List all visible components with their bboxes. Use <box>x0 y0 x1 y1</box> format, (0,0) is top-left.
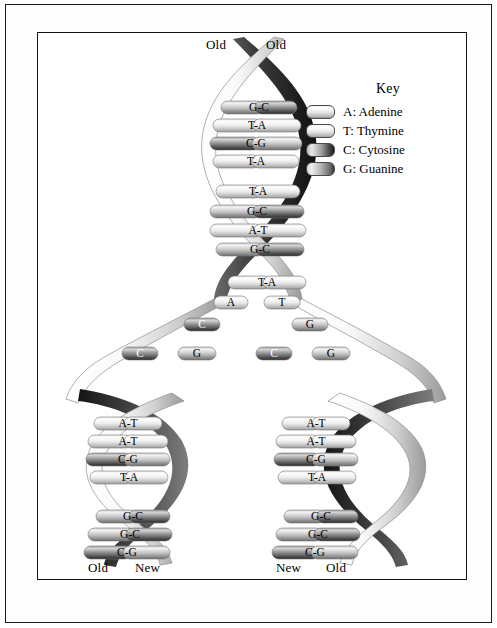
base-pair-text: T-A <box>258 276 277 288</box>
daughter-right-base-pairs: A-TA-TC-GT-AG-CG-CC-G <box>272 417 360 559</box>
base-pair-rung: T-A <box>213 119 301 132</box>
base-pair-rung: G-C <box>216 243 304 256</box>
unpaired-base: G <box>178 347 216 360</box>
unpaired-base: C <box>184 318 220 331</box>
base-pair-text: G-C <box>311 510 331 522</box>
base-pair-text: G-C <box>123 510 143 522</box>
base-pair-rung: C-G <box>272 546 358 559</box>
base-pair-rung: A-T <box>94 417 162 430</box>
base-pair-text: T-A <box>308 471 327 483</box>
key-label-a: A: Adenine <box>343 104 403 120</box>
base-pair-rung: C-G <box>210 137 302 150</box>
parent-helix <box>202 37 317 301</box>
base-pair-text: T-A <box>247 155 266 167</box>
base-pair-text: G-C <box>308 528 328 540</box>
parent-base-pairs: G-CT-AC-GT-AT-AG-CA-TG-CT-A <box>210 101 306 289</box>
label-daughter-right-old: Old <box>326 560 346 576</box>
base-pair-rung: T-A <box>228 276 306 289</box>
base-pair-rung: C-G <box>84 546 170 559</box>
base-pair-text: G <box>327 347 335 359</box>
key-item-c: C: Cytosine <box>306 141 456 158</box>
base-pair-text: T-A <box>120 471 139 483</box>
unpaired-base: G <box>312 347 350 360</box>
legend-key: Key A: AdenineT: ThymineC: CytosineG: Gu… <box>306 81 456 179</box>
base-pair-text: C <box>270 347 278 359</box>
outer-frame: G-CT-AC-GT-AT-AG-CA-TG-CT-A ACCG TGCG A-… <box>5 4 492 623</box>
base-pair-text: A-T <box>306 417 325 429</box>
base-pair-text: C-G <box>306 453 326 465</box>
label-parent-strand-left: Old <box>206 37 226 53</box>
key-title: Key <box>306 81 456 97</box>
base-pair-text: A-T <box>118 417 137 429</box>
key-item-t: T: Thymine <box>306 122 456 139</box>
base-pair-text: A-T <box>306 435 325 447</box>
key-swatch-t-icon <box>306 124 335 138</box>
base-pair-rung: G-C <box>210 205 304 218</box>
base-pair-text: C-G <box>305 546 325 558</box>
base-pair-text: T-A <box>249 185 268 197</box>
base-pair-rung: C-G <box>274 453 358 466</box>
base-pair-rung: A-T <box>282 417 350 430</box>
base-pair-rung: G-C <box>276 528 360 541</box>
base-pair-text: C-G <box>117 546 137 558</box>
base-pair-text: G-C <box>247 205 267 217</box>
key-label-c: C: Cytosine <box>343 142 405 158</box>
key-rows: A: AdenineT: ThymineC: CytosineG: Guanin… <box>306 103 456 177</box>
figure-root: G-CT-AC-GT-AT-AG-CA-TG-CT-A ACCG TGCG A-… <box>0 0 497 628</box>
base-pair-text: A-T <box>118 435 137 447</box>
key-swatch-c-icon <box>306 143 335 157</box>
unpaired-base: G <box>292 318 328 331</box>
key-item-g: G: Guanine <box>306 160 456 177</box>
base-pair-text: A <box>227 296 236 308</box>
parent-back-ribbon <box>214 37 316 301</box>
base-pair-text: C <box>136 347 144 359</box>
base-pair-rung: G-C <box>284 510 358 523</box>
unpaired-base: C <box>256 347 292 360</box>
base-pair-text: T <box>278 296 285 308</box>
key-swatch-g-icon <box>306 162 335 176</box>
label-daughter-left-old: Old <box>88 560 108 576</box>
base-pair-rung: G-C <box>88 528 172 541</box>
base-pair-text: G <box>193 347 201 359</box>
base-pair-rung: T-A <box>278 471 356 484</box>
unpaired-base: C <box>122 347 158 360</box>
base-pair-rung: T-A <box>216 185 300 198</box>
key-item-a: A: Adenine <box>306 103 456 120</box>
parent-front-ribbon <box>202 37 302 301</box>
label-daughter-right-new: New <box>276 560 301 576</box>
diagram-panel: G-CT-AC-GT-AT-AG-CA-TG-CT-A ACCG TGCG A-… <box>37 32 467 580</box>
base-pair-text: C <box>198 318 206 330</box>
base-pair-text: A-T <box>248 224 267 236</box>
base-pair-text: T-A <box>248 119 267 131</box>
base-pair-text: C-G <box>118 453 138 465</box>
label-parent-strand-right: Old <box>266 37 286 53</box>
base-pair-text: G-C <box>250 243 270 255</box>
base-pair-rung: T-A <box>90 471 168 484</box>
fork-left-unpaired-bases: ACCG <box>122 296 248 360</box>
key-label-t: T: Thymine <box>343 123 404 139</box>
base-pair-rung: G-C <box>221 101 297 114</box>
base-pair-text: G-C <box>120 528 140 540</box>
base-pair-rung: A-T <box>88 435 168 448</box>
unpaired-base: A <box>214 296 248 309</box>
base-pair-text: G-C <box>249 101 269 113</box>
base-pair-rung: G-C <box>96 510 170 523</box>
base-pair-rung: T-A <box>213 155 299 168</box>
unpaired-base: T <box>264 296 300 309</box>
key-label-g: G: Guanine <box>343 161 403 177</box>
base-pair-text: C-G <box>246 137 266 149</box>
base-pair-text: G <box>306 318 314 330</box>
label-daughter-left-new: New <box>135 560 160 576</box>
base-pair-rung: C-G <box>86 453 170 466</box>
base-pair-rung: A-T <box>276 435 356 448</box>
key-swatch-a-icon <box>306 105 335 119</box>
base-pair-rung: A-T <box>210 224 306 237</box>
